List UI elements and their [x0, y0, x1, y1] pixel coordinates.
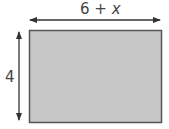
rectangle-shape [30, 31, 162, 123]
height-label: 4 [5, 70, 15, 85]
width-label: 6 + x [80, 2, 121, 17]
diagram-canvas [0, 0, 169, 129]
width-label-constant: 6 + [80, 0, 112, 18]
width-label-variable: x [112, 0, 121, 18]
